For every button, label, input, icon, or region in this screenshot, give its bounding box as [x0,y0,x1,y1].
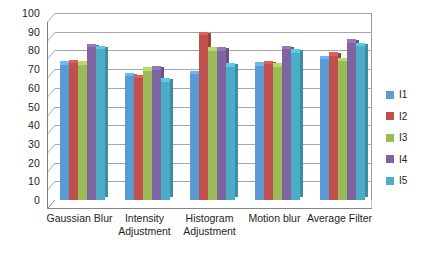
bar-column[interactable] [69,13,78,209]
bar[interactable] [125,73,134,200]
bar-column[interactable] [125,13,134,209]
bar-face [347,42,356,200]
plot-area [47,13,372,209]
bar-top [60,61,69,65]
y-axis-tick-label: 30 [28,138,40,150]
bar-face [291,52,300,200]
bar[interactable] [320,56,329,200]
bar-face [264,64,273,201]
bar-top [190,71,199,75]
bar-column[interactable] [356,13,365,209]
bar[interactable] [143,67,152,200]
bar-top [161,78,170,82]
legend-label: I2 [399,111,407,122]
bar-face [338,61,347,200]
bar-group [190,13,236,209]
bar-face [152,69,161,200]
bar[interactable] [87,44,96,200]
y-axis-tick-label: 0 [34,194,40,206]
bar[interactable] [264,61,273,201]
bar-column[interactable] [87,13,96,209]
bar[interactable] [273,63,282,200]
bar-top [125,73,134,77]
y-axis-tick-label: 100 [22,7,40,19]
bar-face [96,49,105,200]
bar[interactable] [69,60,78,200]
x-axis-category-label: Gaussian Blur [44,212,115,225]
bar-top [199,32,208,36]
y-axis: 1009080706050403020100 [0,0,44,277]
bar-column[interactable] [161,13,170,209]
bar-column[interactable] [217,13,226,209]
bar-column[interactable] [96,13,105,209]
legend-swatch [386,155,394,163]
bar-side [235,64,238,197]
bar-column[interactable] [273,13,282,209]
bar-column[interactable] [199,13,208,209]
bar-face [161,81,170,200]
bar[interactable] [329,52,338,200]
bar[interactable] [338,58,347,200]
bar-column[interactable] [78,13,87,209]
y-axis-tick-label: 80 [28,44,40,56]
bar-face [190,74,199,200]
bar[interactable] [226,63,235,200]
bar-side [105,47,108,197]
bar[interactable] [78,61,87,200]
bar[interactable] [217,47,226,200]
x-axis-category-labels: Gaussian BlurIntensity AdjustmentHistogr… [47,212,372,262]
bars-layer [47,13,372,209]
x-axis-category-label: Motion blur [239,212,310,225]
bar[interactable] [190,71,199,200]
bar-column[interactable] [338,13,347,209]
bar[interactable] [199,32,208,200]
bar[interactable] [96,46,105,200]
bar-group [60,13,106,209]
bar[interactable] [161,78,170,200]
bar-column[interactable] [226,13,235,209]
bar[interactable] [291,49,300,200]
bar-group [255,13,301,209]
legend-item[interactable]: I1 [386,84,428,106]
bar-column[interactable] [60,13,69,209]
bar[interactable] [134,75,143,200]
bar-face [255,65,264,200]
bar[interactable] [208,47,217,200]
bar-top [226,63,235,67]
bar-top [291,49,300,53]
bar-column[interactable] [347,13,356,209]
bar-face [282,49,291,200]
legend-item[interactable]: I2 [386,106,428,128]
bar-top [356,43,365,47]
bar-column[interactable] [264,13,273,209]
bar-side [300,50,303,197]
bar-column[interactable] [143,13,152,209]
legend-item[interactable]: I3 [386,127,428,149]
bar-column[interactable] [291,13,300,209]
bar-column[interactable] [255,13,264,209]
bar[interactable] [60,61,69,200]
legend-label: I4 [399,154,407,165]
bar-column[interactable] [208,13,217,209]
bar[interactable] [255,62,264,200]
bar-group [320,13,366,209]
bar[interactable] [152,66,161,200]
bar-face [69,63,78,200]
bar-column[interactable] [329,13,338,209]
bar[interactable] [347,39,356,200]
bar[interactable] [282,46,291,200]
legend-item[interactable]: I4 [386,149,428,171]
legend-swatch [386,112,394,120]
y-axis-tick-label: 40 [28,119,40,131]
bar-top [134,75,143,79]
bar[interactable] [356,43,365,200]
legend-item[interactable]: I5 [386,170,428,192]
bar-top [208,47,217,51]
bar-column[interactable] [190,13,199,209]
bar-column[interactable] [282,13,291,209]
bar-top [143,67,152,71]
bar-column[interactable] [134,13,143,209]
bar-column[interactable] [152,13,161,209]
bar-top [96,46,105,50]
bar-column[interactable] [320,13,329,209]
